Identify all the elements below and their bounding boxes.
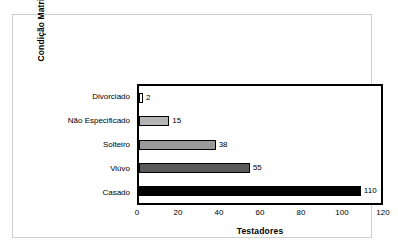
bar-viuvo[interactable] — [139, 163, 250, 173]
y-tick-label-viuvo: Viúvo — [49, 157, 134, 181]
x-axis-tick-labels: 0 20 40 60 80 100 120 — [137, 208, 383, 220]
x-tick-label-120: 120 — [376, 208, 389, 217]
bars-layer: 2 15 38 55 110 — [139, 86, 381, 203]
bar-row: 55 — [139, 156, 381, 179]
x-tick-label-40: 40 — [215, 208, 224, 217]
bar-row: 110 — [139, 180, 381, 203]
plot-area: 2 15 38 55 110 — [137, 84, 383, 205]
x-tick-label-20: 20 — [174, 208, 183, 217]
bar-value-viuvo: 55 — [253, 164, 262, 172]
y-axis-title: Condição Matrimonial — [33, 0, 49, 81]
bar-casado[interactable] — [139, 186, 361, 196]
bar-value-divorciado: 2 — [146, 94, 150, 102]
bar-value-casado: 110 — [364, 187, 377, 195]
bar-row: 15 — [139, 109, 381, 132]
y-tick-label-casado: Casado — [49, 181, 134, 205]
y-tick-label-solteiro: Solteiro — [49, 132, 134, 156]
x-tick-label-80: 80 — [297, 208, 306, 217]
bar-value-solteiro: 38 — [219, 141, 228, 149]
x-axis-title: Testadores — [137, 226, 383, 236]
bar-divorciado[interactable] — [139, 93, 143, 103]
y-axis-tick-labels: Divorciado Não Especificado Solteiro Viú… — [49, 84, 134, 205]
bar-value-nao-especificado: 15 — [172, 117, 181, 125]
bar-row: 2 — [139, 86, 381, 109]
x-tick-label-100: 100 — [335, 208, 348, 217]
y-tick-label-divorciado: Divorciado — [49, 84, 134, 108]
chart-figure-container: Condição Matrimonial Divorciado Não Espe… — [12, 14, 372, 238]
x-tick-label-60: 60 — [256, 208, 265, 217]
bar-row: 38 — [139, 133, 381, 156]
x-tick-label-0: 0 — [135, 208, 139, 217]
bar-nao-especificado[interactable] — [139, 116, 169, 126]
y-tick-label-nao-especificado: Não Especificado — [49, 108, 134, 132]
bar-solteiro[interactable] — [139, 140, 216, 150]
